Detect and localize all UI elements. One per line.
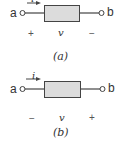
current-label: i <box>31 0 34 4</box>
terminal-a-label: a <box>10 83 17 95</box>
caption-a: (a) <box>53 51 68 62</box>
terminal-a-circle-icon <box>20 11 25 16</box>
circuit-element-box <box>45 6 80 22</box>
terminal-b-circle-icon <box>99 11 104 16</box>
polarity-left: − <box>29 114 35 124</box>
terminal-a-circle-icon <box>20 87 25 92</box>
polarity-right: + <box>89 113 95 123</box>
terminal-b-circle-icon <box>100 87 105 92</box>
polarity-left: + <box>28 29 34 39</box>
voltage-label: v <box>59 113 65 123</box>
circuit-element-box <box>45 82 81 98</box>
polarity-right: − <box>89 29 95 39</box>
terminal-a-label: a <box>10 7 17 19</box>
terminal-b-label: b <box>107 6 114 18</box>
terminal-b-label: b <box>108 82 115 94</box>
figure-b: i a b − v + (b) <box>0 74 126 148</box>
current-label: i <box>32 71 35 81</box>
voltage-label: v <box>58 28 64 38</box>
caption-b: (b) <box>53 127 69 138</box>
figure-a: i a b + v − (a) <box>0 0 126 74</box>
